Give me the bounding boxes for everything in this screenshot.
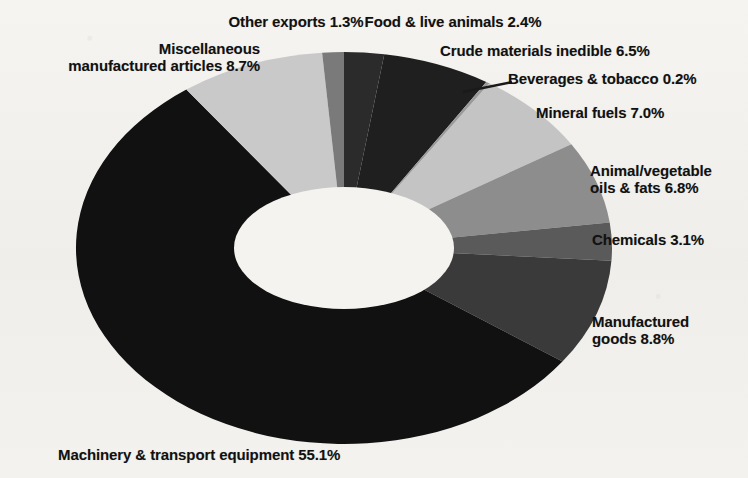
- donut-hole: [234, 187, 454, 309]
- slice-label-mineral-fuels: Mineral fuels 7.0%: [536, 104, 744, 121]
- slice-label-crude-materials-inedible: Crude materials inedible 6.5%: [440, 42, 740, 59]
- slice-label-animal-vegetable-oils-and-fats: Animal/vegetable oils & fats 6.8%: [590, 162, 742, 197]
- slice-label-miscellaneous-manufactured-articles: Miscellaneous manufactured articles 8.7%: [10, 40, 260, 75]
- pie-chart: Miscellaneous manufactured articles 8.7%…: [0, 0, 748, 478]
- slice-label-manufactured-goods: Manufactured goods 8.8%: [592, 313, 742, 348]
- slice-label-beverages-and-tobacco: Beverages & tobacco 0.2%: [508, 70, 746, 87]
- slice-label-chemicals: Chemicals 3.1%: [592, 231, 742, 248]
- slice-label-machinery-and-transport-equipment: Machinery & transport equipment 55.1%: [58, 446, 458, 463]
- slice-label-food-and-live-animals: Food & live animals 2.4%: [340, 13, 566, 30]
